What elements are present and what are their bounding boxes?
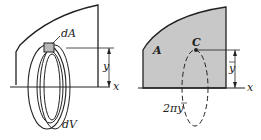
arrow-down-icon xyxy=(107,81,111,87)
path-length-label: 2πy xyxy=(162,102,184,115)
arrow-up-icon xyxy=(233,50,237,56)
centroid-label: C xyxy=(192,36,201,49)
arrow-up-icon xyxy=(107,48,111,54)
arrow-down-icon xyxy=(233,82,237,88)
area-element xyxy=(44,43,54,52)
x-label: x xyxy=(247,81,254,94)
dV-label: dV xyxy=(62,118,78,131)
area-label: A xyxy=(152,44,162,57)
x-label: x xyxy=(113,80,120,93)
ybar-label: y xyxy=(228,62,236,75)
pappus-theorem-diagram: dA y x dV C A y x 2πy xyxy=(0,0,261,140)
dA-label: dA xyxy=(61,27,76,40)
dA-leader xyxy=(52,36,60,44)
left-figure: dA y x dV xyxy=(10,5,120,131)
right-figure: C A y x 2πy xyxy=(138,7,254,126)
y-label: y xyxy=(102,60,110,73)
